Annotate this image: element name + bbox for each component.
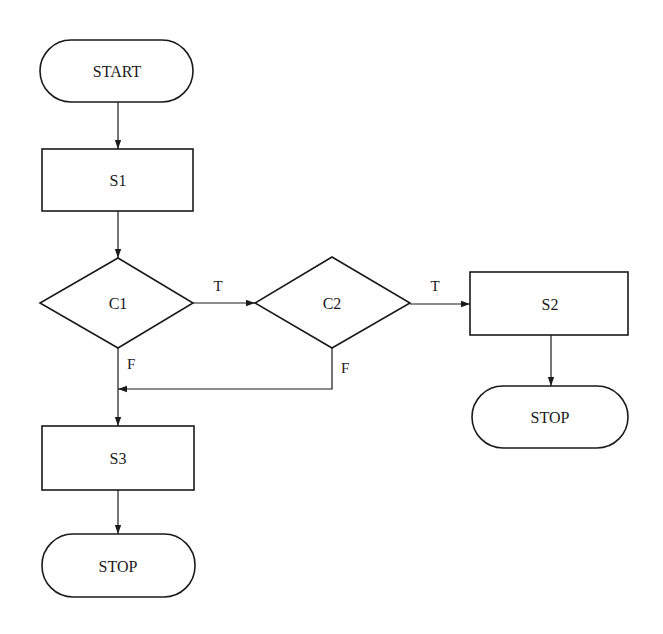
edge-c2-s3 xyxy=(118,348,332,389)
c2-decision: C2 xyxy=(255,257,410,348)
stop-bottom-terminal: STOP xyxy=(42,534,195,597)
c2-false-label: F xyxy=(341,360,349,376)
c2-true-label: T xyxy=(430,278,439,294)
stop-right-label: STOP xyxy=(531,409,570,426)
flowchart-canvas: START S1 C1 T C2 T S2 STOP F F xyxy=(0,0,663,634)
s3-label: S3 xyxy=(110,450,127,467)
c1-decision: C1 xyxy=(40,258,193,348)
stop-right-terminal: STOP xyxy=(472,386,628,448)
start-terminal: START xyxy=(40,40,193,102)
s3-process: S3 xyxy=(42,426,194,490)
c1-true-label: T xyxy=(213,278,222,294)
stop-bottom-label: STOP xyxy=(99,558,138,575)
c2-label: C2 xyxy=(323,295,342,312)
s1-process: S1 xyxy=(42,149,193,211)
c1-label: C1 xyxy=(109,295,128,312)
s2-process: S2 xyxy=(470,272,628,335)
s2-label: S2 xyxy=(542,296,559,313)
s1-label: S1 xyxy=(110,172,127,189)
start-label: START xyxy=(93,63,142,80)
c1-false-label: F xyxy=(127,356,135,372)
